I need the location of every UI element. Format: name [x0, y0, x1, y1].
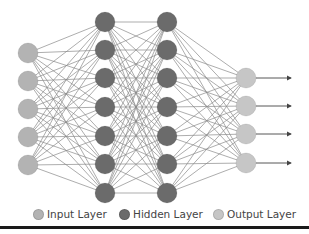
neural-network-diagram [0, 0, 309, 206]
hidden2-node [157, 12, 177, 32]
hidden2-node [157, 40, 177, 60]
edge [167, 163, 246, 193]
hidden2-node [157, 68, 177, 88]
edge [28, 22, 105, 137]
legend-label-output: Output Layer [227, 208, 296, 220]
bottom-divider [0, 226, 309, 229]
output-node [236, 68, 256, 88]
legend-item-input: Input Layer [33, 208, 107, 220]
legend-item-output: Output Layer [213, 208, 296, 220]
connection-edges [28, 22, 246, 193]
legend-label-input: Input Layer [47, 208, 107, 220]
legend: Input Layer Hidden Layer Output Layer [0, 206, 309, 222]
input-node [18, 71, 38, 91]
edge [167, 50, 246, 78]
input-node [18, 155, 38, 175]
edge [28, 22, 105, 81]
hidden1-node [95, 154, 115, 174]
hidden2-node [157, 183, 177, 203]
output-node [236, 96, 256, 116]
hidden1-node [95, 183, 115, 203]
edge [28, 22, 105, 53]
input-node [18, 43, 38, 63]
output-layer-swatch-icon [213, 209, 224, 220]
input-node [18, 127, 38, 147]
input-layer-swatch-icon [33, 209, 44, 220]
hidden2-node [157, 154, 177, 174]
hidden2-node [157, 126, 177, 146]
edge [167, 22, 246, 78]
output-node [236, 153, 256, 173]
legend-label-hidden: Hidden Layer [133, 208, 203, 220]
edge [28, 164, 105, 165]
edge [28, 136, 105, 165]
hidden1-node [95, 126, 115, 146]
hidden-layer-swatch-icon [119, 209, 130, 220]
output-arrows [256, 78, 291, 163]
edge [167, 106, 246, 193]
hidden1-node [95, 97, 115, 117]
edge [28, 165, 105, 193]
legend-item-hidden: Hidden Layer [119, 208, 203, 220]
edge [28, 109, 105, 136]
hidden1-node [95, 40, 115, 60]
hidden1-node [95, 68, 115, 88]
hidden2-node [157, 97, 177, 117]
output-node [236, 124, 256, 144]
hidden1-node [95, 12, 115, 32]
input-node [18, 99, 38, 119]
